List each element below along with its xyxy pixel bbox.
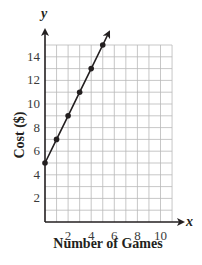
y-tick-label: 4 bbox=[34, 167, 41, 182]
data-point bbox=[65, 113, 71, 119]
y-tick-label: 12 bbox=[27, 72, 40, 87]
y-tick-label: 6 bbox=[34, 143, 41, 158]
x-axis-title: Number of Games bbox=[53, 236, 163, 251]
cost-line bbox=[45, 32, 109, 163]
line-chart: 2468102468101214 x y Number of Games Cos… bbox=[0, 0, 202, 265]
x-axis-variable: x bbox=[185, 214, 193, 229]
data-point bbox=[100, 42, 106, 48]
y-tick-label: 8 bbox=[34, 120, 41, 135]
data-point bbox=[42, 160, 48, 166]
y-tick-label: 10 bbox=[27, 96, 40, 111]
y-tick-label: 2 bbox=[34, 190, 41, 205]
y-axis-title: Cost ($) bbox=[12, 111, 28, 158]
data-series bbox=[42, 32, 109, 166]
data-point bbox=[88, 66, 94, 72]
tick-labels: 2468102468101214 bbox=[27, 49, 167, 243]
y-axis-variable: y bbox=[39, 6, 48, 21]
grid-lines bbox=[45, 45, 172, 222]
data-point bbox=[77, 89, 83, 95]
data-point bbox=[54, 137, 60, 143]
y-tick-label: 14 bbox=[27, 49, 41, 64]
